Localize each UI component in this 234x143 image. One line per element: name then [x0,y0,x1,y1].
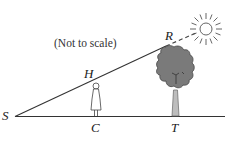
point-label-r: R [164,28,173,43]
tree-crown-icon [157,46,195,88]
point-label-c: C [91,120,100,135]
sight-line [15,46,166,117]
point-label-s: S [2,108,9,123]
point-label-h: H [83,66,94,81]
point-label-t: T [171,120,179,135]
not-to-scale-note: (Not to scale) [54,37,117,50]
person-icon [91,83,101,116]
shadow-diagram: S C T H R (Not to scale) [0,0,234,143]
tree-trunk [172,90,179,116]
sun-icon [190,13,222,45]
